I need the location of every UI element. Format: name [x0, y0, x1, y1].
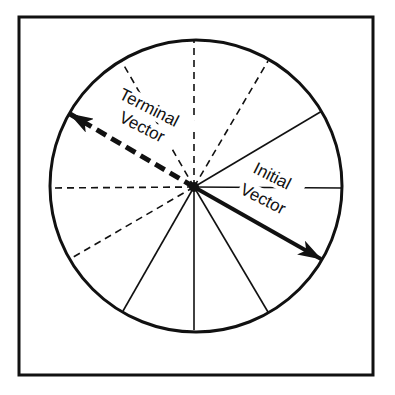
- outer-frame: [19, 17, 373, 375]
- vector-circle-diagram: Terminal Vector Initial Vector: [0, 0, 395, 395]
- spoke-lower-left-dashed: [70, 187, 194, 259]
- spoke-lower-left: [123, 187, 194, 311]
- spoke-left: [50, 187, 194, 188]
- center-hub: [189, 182, 199, 192]
- spoke-right: [194, 187, 342, 188]
